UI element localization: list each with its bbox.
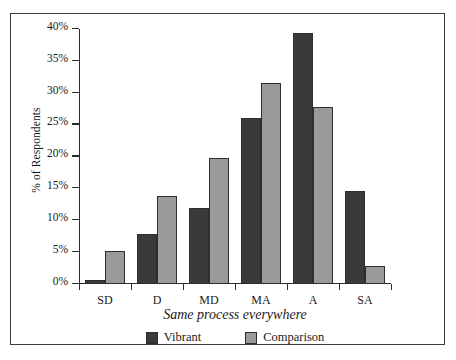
y-axis-tick: 40% <box>72 28 79 29</box>
bar <box>261 83 281 284</box>
x-axis-tick <box>339 284 340 290</box>
legend-item: Vibrant <box>146 330 201 345</box>
x-axis-tick <box>235 284 236 290</box>
x-axis-tick <box>287 284 288 290</box>
bar <box>105 251 125 284</box>
x-axis-category-label: SD <box>97 293 112 308</box>
y-axis-tick: 15% <box>72 187 79 188</box>
y-axis-tick: 25% <box>72 123 79 124</box>
legend-label: Comparison <box>263 330 324 345</box>
bar <box>293 33 313 284</box>
y-axis-tick: 20% <box>72 155 79 156</box>
legend-label: Vibrant <box>164 330 201 345</box>
x-axis-tick <box>131 284 132 290</box>
legend-swatch-icon <box>146 332 158 344</box>
y-axis-tick-label: 25% <box>47 115 68 127</box>
y-axis-tick-label: 5% <box>53 243 68 255</box>
bar-chart: % of Respondents 0%5%10%15%20%25%30%35%4… <box>11 14 444 344</box>
x-axis-tick <box>183 284 184 290</box>
x-axis-category-label: MD <box>199 293 218 308</box>
y-axis-tick-label: 20% <box>47 147 68 159</box>
x-axis-tick <box>391 284 392 290</box>
y-axis-line <box>79 29 80 284</box>
x-axis-category-label: D <box>153 293 162 308</box>
bar <box>189 208 209 284</box>
x-axis-category-label: MA <box>251 293 270 308</box>
bar <box>157 196 177 284</box>
bar <box>345 191 365 284</box>
bar <box>241 118 261 284</box>
y-axis-tick-label: 35% <box>47 52 68 64</box>
x-axis-title: Same process everywhere <box>79 307 391 323</box>
x-axis-category-label: A <box>309 293 318 308</box>
y-axis-tick-label: 15% <box>47 179 68 191</box>
y-axis-tick: 0% <box>72 283 79 284</box>
x-axis-tick <box>79 284 80 290</box>
y-axis-tick-label: 10% <box>47 211 68 223</box>
y-axis-tick-label: 40% <box>47 20 68 32</box>
y-axis-tick: 35% <box>72 60 79 61</box>
bar <box>85 280 105 284</box>
legend-swatch-icon <box>245 332 257 344</box>
plot-area: 0%5%10%15%20%25%30%35%40% SDDMDMAASA <box>79 29 391 284</box>
bar <box>313 107 333 284</box>
y-axis-tick: 30% <box>72 92 79 93</box>
legend-item: Comparison <box>245 330 324 345</box>
figure-frame: % of Respondents 0%5%10%15%20%25%30%35%4… <box>10 13 445 345</box>
bar <box>209 158 229 284</box>
bar <box>365 266 385 284</box>
y-axis-tick-label: 30% <box>47 84 68 96</box>
bar <box>137 234 157 284</box>
y-axis-title: % of Respondents <box>30 65 42 235</box>
x-axis-category-label: SA <box>357 293 372 308</box>
y-axis-tick: 10% <box>72 219 79 220</box>
y-axis-tick-label: 0% <box>53 275 68 287</box>
y-axis-tick: 5% <box>72 251 79 252</box>
chart-legend: VibrantComparison <box>79 330 391 345</box>
